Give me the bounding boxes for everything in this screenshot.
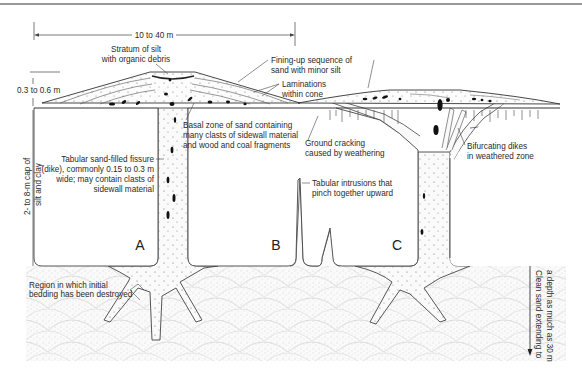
svg-text:in weathered zone: in weathered zone [467, 152, 534, 161]
sand-blow-cross-section-diagram: 10 to 40 m 0.3 to 0.6 m 2- to 8-m cap of… [0, 0, 582, 381]
svg-text:Basal zone of sand containing: Basal zone of sand containing [183, 121, 293, 130]
svg-text:and wood and coal fragments: and wood and coal fragments [183, 141, 290, 150]
svg-text:Bifurcating dikes: Bifurcating dikes [467, 142, 527, 151]
annotation-stratum-silt: Stratum of silt with organic debris [101, 45, 170, 74]
svg-text:pinch together upward: pinch together upward [312, 189, 393, 198]
svg-text:Region in which initial: Region in which initial [29, 281, 108, 290]
width-label: 10 to 40 m [135, 31, 174, 40]
svg-text:sand with minor silt: sand with minor silt [271, 66, 341, 75]
svg-text:Stratum of silt: Stratum of silt [111, 45, 162, 54]
svg-text:Laminations: Laminations [282, 80, 326, 89]
svg-text:Tabular intrusions that: Tabular intrusions that [312, 179, 393, 188]
width-dimension: 10 to 40 m [34, 22, 295, 46]
svg-text:Tabular sand-filled fissure: Tabular sand-filled fissure [61, 155, 154, 164]
svg-text:Fining-up sequence of: Fining-up sequence of [271, 56, 353, 65]
dike-label-b: B [271, 237, 280, 253]
svg-text:within cone: within cone [281, 90, 323, 99]
svg-text:wide; may contain clasts of: wide; may contain clasts of [55, 175, 155, 184]
dike-label-c: C [392, 237, 402, 253]
annotation-tabular-intrusions: Tabular intrusions that pinch together u… [302, 179, 393, 198]
svg-text:bedding has been destroyed: bedding has been destroyed [29, 290, 133, 299]
sand-depth-label-line2: a depth as much as 30 m [545, 270, 554, 362]
svg-text:caused by weathering: caused by weathering [305, 149, 385, 158]
svg-text:Ground cracking: Ground cracking [305, 139, 366, 148]
svg-text:sidewall material: sidewall material [93, 185, 154, 194]
cap-thickness-label-line1: 2- to 8-m cap of [23, 157, 32, 215]
sand-depth-label-line1: Clean sand extending to [534, 270, 543, 359]
svg-text:with organic debris: with organic debris [101, 55, 170, 64]
dike-label-a: A [135, 237, 145, 253]
svg-text:(dike), commonly 0.15 to 0.3 m: (dike), commonly 0.15 to 0.3 m [42, 165, 155, 174]
svg-text:many clasts of sidewall materi: many clasts of sidewall material [183, 131, 298, 140]
cone-thickness-label: 0.3 to 0.6 m [17, 86, 60, 95]
